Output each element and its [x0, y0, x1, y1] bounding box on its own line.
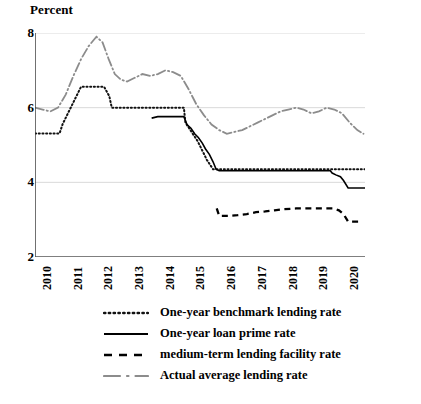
legend-swatch-lpr: [103, 328, 149, 340]
x-axis-tick-2013: 2013: [132, 266, 147, 290]
series-layer: [35, 37, 365, 222]
legend-swatch-actual: [103, 370, 149, 382]
legend-item-lpr: One-year loan prime rate: [103, 323, 383, 344]
gridlines: [35, 33, 365, 182]
x-axis-tick-2014: 2014: [163, 266, 178, 290]
x-axis-tick-2020: 2020: [347, 266, 362, 290]
x-axis-tick-2010: 2010: [40, 266, 55, 290]
chart-legend: One-year benchmark lending rateOne-year …: [103, 302, 383, 386]
x-axis-tick-2012: 2012: [101, 266, 116, 290]
series-line-2: [217, 208, 361, 221]
legend-swatch-mlf: [103, 349, 149, 361]
legend-item-benchmark: One-year benchmark lending rate: [103, 302, 383, 323]
legend-label-mlf: medium-term lending facility rate: [160, 347, 341, 362]
legend-swatch-benchmark: [103, 307, 149, 319]
legend-label-actual: Actual average lending rate: [160, 368, 308, 383]
chart-figure: Percent 8642 201020112012201320142015201…: [0, 0, 421, 404]
x-axis-tick-2017: 2017: [255, 266, 270, 290]
plot-area: [35, 33, 365, 257]
series-line-0: [35, 87, 365, 170]
x-axis-tick-2016: 2016: [224, 266, 239, 290]
x-axis-tick-2019: 2019: [316, 266, 331, 290]
x-axis-tick-2015: 2015: [193, 266, 208, 290]
legend-label-benchmark: One-year benchmark lending rate: [160, 305, 341, 320]
series-line-3: [35, 37, 363, 134]
x-axis-tick-2011: 2011: [71, 267, 86, 290]
series-line-1: [152, 117, 365, 188]
x-axis-tick-2018: 2018: [286, 266, 301, 290]
legend-label-lpr: One-year loan prime rate: [160, 326, 296, 341]
legend-item-actual: Actual average lending rate: [103, 365, 383, 386]
legend-item-mlf: medium-term lending facility rate: [103, 344, 383, 365]
